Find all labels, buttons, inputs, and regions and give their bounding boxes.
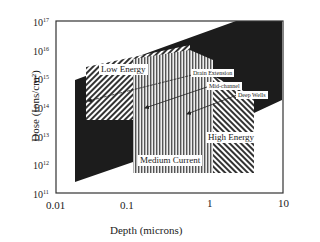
label-deep-wells: Deep Wells	[236, 91, 268, 99]
y-axis-label: Dose (Ions/cm²)	[29, 51, 41, 161]
x-axis-label: Depth (microns)	[110, 224, 182, 236]
x-tick-10: 10	[278, 198, 289, 209]
label-drain-extension: Drain Extension	[191, 69, 234, 77]
x-tick-0.01: 0.01	[46, 200, 65, 211]
label-medium-current: Medium Current	[138, 155, 202, 166]
x-tick-1: 1	[207, 198, 213, 209]
x-tick-0.1: 0.1	[120, 200, 134, 211]
label-mid-channel: Mid-channel	[207, 82, 242, 90]
label-high-energy: High Energy	[206, 132, 256, 143]
label-low-energy: Low Energy	[99, 64, 148, 75]
y-tick-17: 1017	[33, 15, 49, 28]
